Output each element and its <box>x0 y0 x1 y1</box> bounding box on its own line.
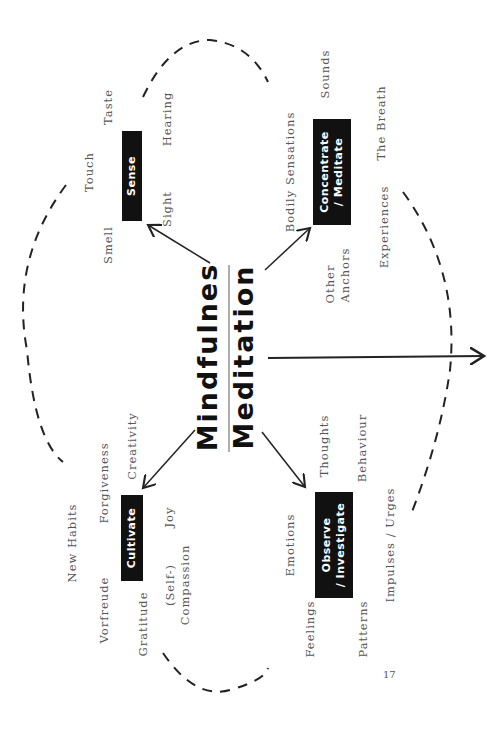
label-sight: Sight <box>160 191 174 227</box>
label-vorfreude: Vorfreude <box>97 577 111 644</box>
title-meditation: Meditation <box>228 265 259 450</box>
label-taste: Taste <box>101 89 115 125</box>
label-feelings: Feelings <box>303 601 317 658</box>
label-emotions: Emotions <box>283 514 297 577</box>
title-mindfulness: Mindfulnes <box>192 263 223 452</box>
label-touch: Touch <box>82 152 96 192</box>
arrow-right <box>268 356 484 358</box>
node-cultivate: Cultivate <box>121 495 143 581</box>
node-observe-investigate: Observe / Investigate <box>315 492 353 598</box>
label-new-habits: New Habits <box>65 504 79 583</box>
dashed-arc-right <box>403 192 451 517</box>
label-patterns: Patterns <box>356 601 370 658</box>
arrow-to-concentrate <box>265 228 310 270</box>
label-behaviour: Behaviour <box>355 414 369 483</box>
dashed-arc-top <box>143 40 268 97</box>
label-bodily-sensations: Bodily Sensations <box>283 112 297 233</box>
label-self: (Self-) <box>163 564 177 606</box>
label-impulses-urges: Impulses / Urges <box>383 488 397 603</box>
label-experiences: Experiences <box>377 186 391 269</box>
arrow-to-cultivate <box>143 430 195 488</box>
label-gratitude: Gratitude <box>136 591 150 656</box>
arrow-to-observe <box>262 432 305 487</box>
node-sense: Sense <box>122 131 142 221</box>
label-creativity: Creativity <box>125 412 139 480</box>
dashed-arc-left <box>23 185 66 462</box>
node-concentrate-meditate: Concentrate / Meditate <box>313 119 351 225</box>
dashed-arc-bottom <box>163 653 268 692</box>
label-sounds: Sounds <box>318 50 332 99</box>
label-other: Other <box>323 265 337 304</box>
arrow-to-sense <box>148 225 210 263</box>
label-the-breath: The Breath <box>374 85 388 160</box>
label-compassion: Compassion <box>178 545 192 626</box>
label-forgiveness: Forgiveness <box>97 442 111 523</box>
label-hearing: Hearing <box>160 92 174 147</box>
label-thoughts: Thoughts <box>317 415 331 478</box>
page-number: 17 <box>383 669 396 680</box>
label-smell: Smell <box>101 226 115 264</box>
label-anchors: Anchors <box>338 248 352 303</box>
label-joy: Joy <box>162 506 176 527</box>
